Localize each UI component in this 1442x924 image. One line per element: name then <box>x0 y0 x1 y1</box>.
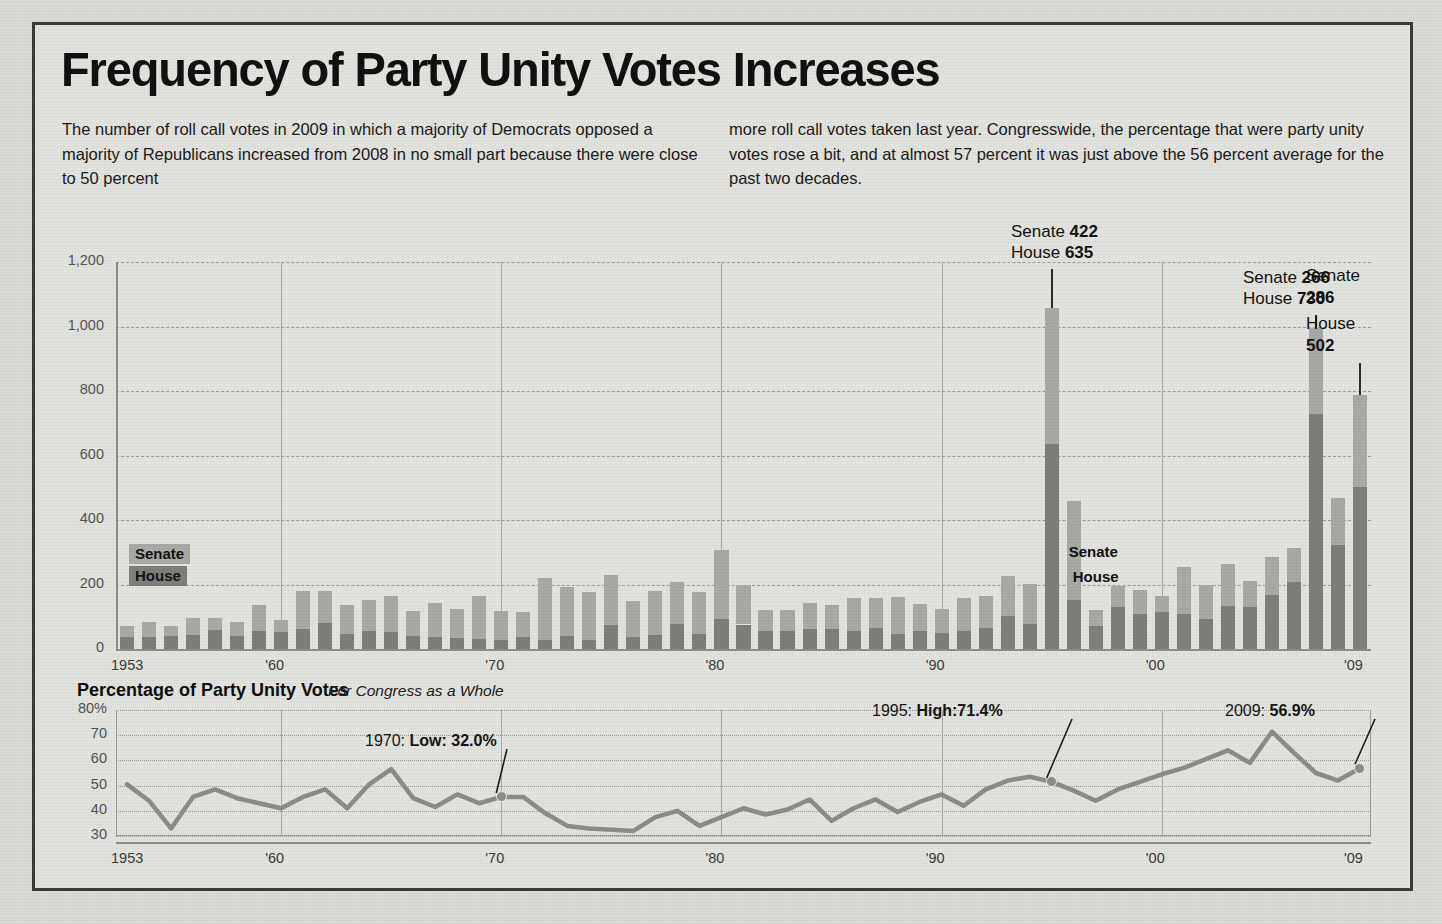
bar-column[interactable] <box>1265 557 1279 649</box>
bar-segment-house <box>825 629 839 649</box>
callout-house-value: 635 <box>1065 243 1093 262</box>
bar-column[interactable] <box>1023 584 1037 649</box>
bar-column[interactable] <box>758 610 772 649</box>
bar-column[interactable] <box>582 592 596 649</box>
bar-segment-house <box>208 630 222 649</box>
bar-segment-senate <box>472 596 486 639</box>
bar-column[interactable] <box>560 587 574 649</box>
bar-column[interactable] <box>494 611 508 649</box>
bar-column[interactable] <box>979 596 993 649</box>
bar-segment-senate <box>913 604 927 631</box>
bar-column[interactable] <box>538 578 552 649</box>
bar-column[interactable] <box>164 626 178 649</box>
bar-column[interactable] <box>142 622 156 649</box>
bar-column[interactable] <box>957 598 971 649</box>
bar-column[interactable] <box>318 591 332 649</box>
bar-column[interactable] <box>208 618 222 649</box>
line-x-axis-tick: '90 <box>926 850 945 866</box>
bar-column[interactable] <box>1353 395 1367 649</box>
bar-column[interactable] <box>670 582 684 649</box>
bar-segment-house <box>1199 619 1213 649</box>
bar-column[interactable] <box>230 622 244 649</box>
bar-segment-senate <box>1353 395 1367 487</box>
bar-column[interactable] <box>1309 328 1323 649</box>
callout-senate-label: Senate <box>1243 268 1302 287</box>
callout-leader-line <box>1051 269 1053 308</box>
bar-segment-senate <box>1243 581 1257 607</box>
line-x-axis-tick: '70 <box>485 850 504 866</box>
bar-segment-house <box>450 638 464 649</box>
bar-segment-senate <box>736 585 750 624</box>
bar-segment-senate <box>648 591 662 636</box>
bar-callout: Senate 422House 635 <box>1011 221 1098 263</box>
inline-legend-house: House <box>1073 568 1119 585</box>
line-x-axis-line <box>116 842 1371 844</box>
bar-column[interactable] <box>626 601 640 649</box>
bar-segment-senate <box>692 592 706 634</box>
line-x-axis-tick: '09 <box>1344 850 1363 866</box>
bar-column[interactable] <box>869 598 883 649</box>
bar-column[interactable] <box>120 626 134 649</box>
bar-column[interactable] <box>714 550 728 649</box>
bar-column[interactable] <box>1177 567 1191 649</box>
bar-column[interactable] <box>362 600 376 649</box>
bar-column[interactable] <box>1243 581 1257 649</box>
callout-senate-value: 286 <box>1306 288 1334 307</box>
bar-segment-house <box>428 637 442 649</box>
bar-column[interactable] <box>1155 596 1169 649</box>
bar-column[interactable] <box>1133 590 1147 649</box>
bar-column[interactable] <box>1287 548 1301 649</box>
bar-column[interactable] <box>274 620 288 649</box>
bar-segment-house <box>891 634 905 649</box>
bar-segment-senate <box>1177 567 1191 614</box>
line-annotation: 1970: Low: 32.0% <box>365 732 497 750</box>
bar-segment-senate <box>1199 585 1213 620</box>
bar-column[interactable] <box>516 612 530 649</box>
bar-column[interactable] <box>384 596 398 649</box>
bar-column[interactable] <box>1199 585 1213 650</box>
bar-column[interactable] <box>648 591 662 649</box>
bar-segment-senate <box>142 622 156 637</box>
bar-segment-house <box>780 631 794 649</box>
bar-column[interactable] <box>913 604 927 649</box>
bar-segment-house <box>362 631 376 649</box>
bar-column[interactable] <box>252 605 266 650</box>
bar-column[interactable] <box>847 598 861 649</box>
bar-column[interactable] <box>186 618 200 649</box>
bar-column[interactable] <box>450 609 464 649</box>
bar-segment-senate <box>1155 596 1169 612</box>
bar-column[interactable] <box>825 605 839 649</box>
bar-column[interactable] <box>340 605 354 649</box>
bar-column[interactable] <box>1221 564 1235 649</box>
bar-segment-house <box>1353 487 1367 649</box>
callout-senate-line: Senate 422 <box>1011 221 1098 242</box>
bar-segment-house <box>1309 414 1323 649</box>
graphic-frame: Frequency of Party Unity Votes Increases… <box>32 22 1413 891</box>
bar-column[interactable] <box>1089 610 1103 649</box>
bar-column[interactable] <box>736 585 750 649</box>
bar-column[interactable] <box>296 591 310 649</box>
bar-decade-gridline <box>942 262 943 649</box>
bar-column[interactable] <box>692 592 706 649</box>
bar-segment-house <box>979 628 993 649</box>
bar-segment-house <box>935 633 949 649</box>
bar-column[interactable] <box>1331 498 1345 649</box>
bar-column[interactable] <box>891 597 905 649</box>
bar-column[interactable] <box>780 610 794 649</box>
bar-segment-house <box>230 636 244 649</box>
bar-segment-senate <box>847 598 861 630</box>
line-annotation: 1995: High:71.4% <box>872 702 1003 720</box>
bar-segment-senate <box>626 601 640 637</box>
bar-column[interactable] <box>604 575 618 649</box>
bar-segment-house <box>1023 624 1037 649</box>
bar-column[interactable] <box>935 609 949 649</box>
bar-column[interactable] <box>406 611 420 649</box>
bar-column[interactable] <box>472 596 486 649</box>
bar-column[interactable] <box>1001 576 1015 649</box>
bar-column[interactable] <box>803 603 817 649</box>
bar-segment-house <box>604 625 618 649</box>
bar-segment-senate <box>560 587 574 635</box>
bar-column[interactable] <box>1045 308 1059 649</box>
bar-column[interactable] <box>1111 586 1125 649</box>
bar-column[interactable] <box>428 603 442 649</box>
